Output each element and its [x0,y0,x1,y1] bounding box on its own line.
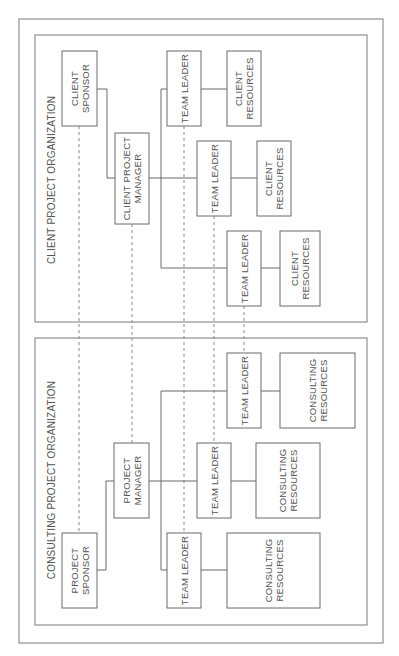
client-team-leader-1-label-line-1: TEAM LEADER [179,54,190,123]
client-team-leader-3-box: TEAM LEADER [227,231,261,306]
client-project-manager-label-line-1: CLIENT PROJECT [121,137,132,220]
client-resources-3-label-line-2: RESOURCES [300,238,311,300]
consulting-resources-1-label-line-2: RESOURCES [274,540,285,602]
project-sponsor-label-line-1: PROJECT [69,548,80,594]
client-project-manager-label-line-2: MANAGER [132,154,143,203]
client-sponsor-label-line-2: SPONSOR [80,64,91,113]
consulting-resources-2-label-line-1: CONSULTING [277,449,288,513]
client-sponsor-box: CLIENTSPONSOR [62,51,97,126]
client-resources-1-label-line-1: CLIENT [233,71,244,106]
org-chart-canvas: CLIENT PROJECT ORGANIZATIONCONSULTING PR… [0,0,399,656]
client-resources-2-label-line-1: CLIENT [263,161,274,196]
consulting-team-leader-2-box: TEAM LEADER [197,443,231,518]
client-resources-2-box: CLIENTRESOURCES [257,141,291,216]
consulting-team-leader-1-box: TEAM LEADER [167,533,201,608]
client-resources-3-box: CLIENTRESOURCES [280,231,320,306]
client-team-leader-2-box: TEAM LEADER [197,141,231,216]
client-team-leader-3-label-line-1: TEAM LEADER [239,234,250,303]
project-manager-label-line-2: MANAGER [132,456,143,505]
consulting-resources-2-box: CONSULTINGRESOURCES [256,443,320,518]
org-chart-diagram: CLIENT PROJECT ORGANIZATIONCONSULTING PR… [0,0,399,656]
project-manager-box: PROJECTMANAGER [114,443,149,518]
consulting-team-leader-3-box: TEAM LEADER [227,353,261,428]
client-resources-3-label-line-1: CLIENT [289,251,300,286]
consulting-resources-1-label-line-1: CONSULTING [263,539,274,603]
consulting-team-leader-3-label-line-1: TEAM LEADER [239,356,250,425]
consulting-resources-3-label-line-1: CONSULTING [307,359,318,423]
consulting-team-leader-2-label-line-1: TEAM LEADER [209,446,220,515]
project-sponsor-label-line-2: SPONSOR [80,546,91,595]
consulting-resources-1-box: CONSULTINGRESOURCES [227,533,320,608]
client-resources-1-label-line-2: RESOURCES [244,58,255,120]
consulting-resources-3-label-line-2: RESOURCES [318,360,329,422]
consulting-resources-2-label-line-2: RESOURCES [288,450,299,512]
project-manager-label-line-1: PROJECT [121,458,132,504]
project-sponsor-box: PROJECTSPONSOR [62,533,97,608]
client-team-leader-1-box: TEAM LEADER [167,51,201,126]
consulting-panel-title: CONSULTING PROJECT ORGANIZATION [46,381,57,579]
client-team-leader-2-label-line-1: TEAM LEADER [209,144,220,213]
client-resources-1-box: CLIENTRESOURCES [227,51,261,126]
consulting-resources-3-box: CONSULTINGRESOURCES [280,353,355,428]
reporting-line [97,481,114,570]
client-panel-title: CLIENT PROJECT ORGANIZATION [46,96,57,264]
consulting-team-leader-1-label-line-1: TEAM LEADER [179,536,190,605]
client-project-manager-box: CLIENT PROJECTMANAGER [115,133,149,224]
client-sponsor-label-line-1: CLIENT [69,71,80,106]
reporting-line [97,89,115,178]
client-resources-2-label-line-2: RESOURCES [274,148,285,210]
